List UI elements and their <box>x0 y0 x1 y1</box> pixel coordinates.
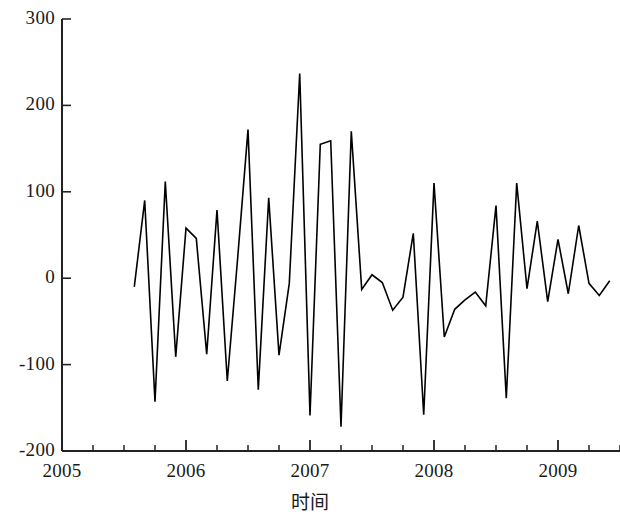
y-tick-label: 100 <box>0 180 55 202</box>
y-tick-label: 300 <box>0 7 55 29</box>
x-axis-title: 时间 <box>0 487 620 514</box>
y-tick-label: -200 <box>0 439 55 461</box>
x-tick-label: 2008 <box>389 460 479 482</box>
chart-plot-area <box>0 0 620 519</box>
series-line-residual <box>134 73 609 426</box>
y-tick-label: 200 <box>0 93 55 115</box>
chart-figure: 3002001000-100-200 20052006200720082009 … <box>0 0 620 519</box>
y-tick-label: 0 <box>0 266 55 288</box>
y-axis-ticks <box>62 19 71 451</box>
x-tick-label: 2006 <box>141 460 231 482</box>
x-axis-major-ticks <box>62 440 558 451</box>
y-tick-label: -100 <box>0 353 55 375</box>
x-tick-label: 2007 <box>265 460 355 482</box>
x-tick-label: 2009 <box>513 460 603 482</box>
x-tick-label: 2005 <box>17 460 107 482</box>
